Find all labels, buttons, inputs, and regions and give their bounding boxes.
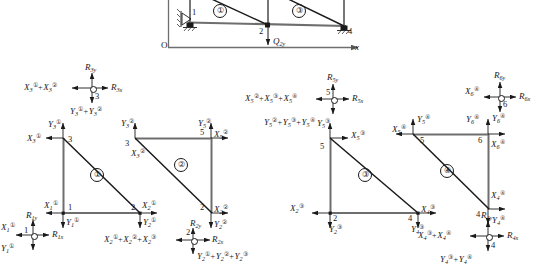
applied-load-label-Q2y: Q2y [273,37,285,47]
element-4-badge: ④ [440,164,454,178]
element-4-node-4-number: 4 [476,210,480,219]
node6-reaction-R6x-label: R6x [519,92,530,102]
node1-sum-X-label: X1① [1,222,15,233]
node2-sum-Y-label: Y2①+Y2②+Y2③ [197,251,248,262]
element-2-badge: ② [174,158,188,172]
element-1-force-X3: X3① [27,133,41,144]
node5-reaction-R5y-label: R5y [327,73,338,83]
global-node-4-label: 4 [348,27,352,36]
element-4-node-5-number: 5 [420,136,424,145]
node1-sum-Y-label: Y1① [1,243,14,254]
node3-reaction-R3y-label: R3y [85,63,96,73]
node6-reaction-R6y-label: R6y [494,71,505,81]
node6-sum-X-label: X6④ [465,86,479,97]
element-1-node-3-number: 3 [68,135,72,144]
element-2-node2-reaction-R2y: R2y [190,219,201,229]
element-3-force-Y2: Y2③ [329,224,342,235]
element-4-node-6-number: 6 [478,136,482,145]
element-2-node-2-number: 2 [200,203,204,212]
element-4-force-Y5: Y5④ [417,114,430,125]
element-3-node-2-number: 2 [333,214,337,223]
node6-sum-Y-label: Y6④ [492,113,505,124]
element-3-force-Y5: Y5③ [317,118,330,129]
global-node-1-label: 1 [192,8,196,17]
element-1-force-Y1: Y1① [66,217,79,228]
element-1-node-2-number: 2 [131,203,135,212]
element-1-force-Y2: Y2① [143,217,156,228]
node4-reaction-R4x-label: R4x [507,231,518,241]
figure-canvas: ① ② ③ ④ ① ③ 1 2 4 Q2y O x R3y R3x 3 X3①+… [0,0,551,280]
node3-reaction-R3x-label: R3x [111,83,122,93]
element-4-force-X4: X4④ [491,190,505,201]
element-1-force-X2: X2① [142,200,156,211]
element-3-badge: ③ [358,168,372,182]
node3-sum-Y-label: Y3①+Y3② [70,106,102,117]
node1-equilibrium-node-number: 1 [24,226,28,235]
element-2-force-Y3: Y3② [121,118,134,129]
global-element-3-badge: ③ [292,4,306,18]
node4-equilibrium-node-number: 4 [491,241,495,250]
element-1-force-Y3: Y3① [48,119,61,130]
x-axis-label: x [355,43,359,52]
element-4-force-Y6: Y6④ [466,114,479,125]
support-roller-node1 [183,23,197,31]
element-2-force-X5: X5② [214,129,228,140]
node3-sum-X-label: X3①+X3② [24,82,57,93]
node1-center-dot [31,233,38,240]
node6-equilibrium-node-number: 6 [503,100,507,109]
node5-reaction-R5x-label: R5x [352,94,363,104]
joint-marker-e3-n4 [416,212,419,215]
global-element-1-badge: ① [213,4,227,18]
element-3-force-X4: X4③ [421,204,435,215]
origin-label: O [161,41,168,50]
joint-marker-e1-n2 [138,212,141,215]
node1-reaction-R1y-label: R1y [26,211,37,221]
joint-marker-e3-n2 [329,212,332,215]
node2-center-dot [191,238,198,245]
element-2-node-5-number: 5 [200,128,204,137]
node2-equilibrium-node-number: 2 [186,228,190,237]
element-1-node-1-number: 1 [68,203,72,212]
node2-sum-X-label: X2①+X2②+X2③ [104,234,156,245]
element-4-force-X5: X5④ [392,124,406,135]
element-3-force-Y4: Y4③ [411,224,424,235]
node4-sum-Y-label: Y4③+Y4④ [440,254,472,265]
element-3-force-X2: X2③ [290,203,304,214]
node2-reaction-R2x-label: R2x [212,235,223,245]
global-node-2-label: 2 [259,27,263,36]
element-2-force-Y2: Y2② [214,219,227,230]
node5-center-dot [331,97,338,104]
node5-equilibrium-node-number: 5 [326,88,330,97]
element-1-force-X1: X1① [44,200,58,211]
element-2-node-3-number: 3 [125,139,129,148]
node3-equilibrium-node-number: 3 [95,92,99,101]
element-4-force-X6: X6④ [491,139,505,150]
element-2-force-X2: X2② [214,204,228,215]
global-structure-group [168,0,358,48]
element-2-force-X3: X3② [131,148,145,159]
element-3-force-X5: X5③ [351,130,365,141]
node5-sum-X-label: X5②+X5③+X5④ [245,93,297,104]
joint-marker-e1-n1 [62,212,65,215]
element-3-node-5-number: 5 [320,142,324,151]
element-3-node-4-number: 4 [408,214,412,223]
node1-reaction-R1x-label: R1x [52,230,63,240]
element-4-force-Y4: Y4④ [492,215,505,226]
node5-sum-Y-label: Y5②+Y5③+Y5④ [264,117,315,128]
element-3-body [330,138,418,213]
node4-reaction-R4y-label: R4y [481,211,492,221]
element-1-badge: ① [90,168,104,182]
